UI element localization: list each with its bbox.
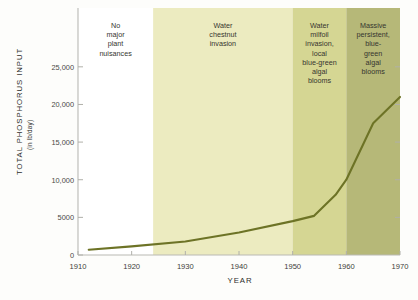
band-label-line: Massive (360, 21, 386, 30)
band-label-line: blue-green (302, 58, 336, 67)
band-label-line: persistent, (357, 30, 390, 39)
y-tick-label: 20,000 (51, 100, 74, 109)
band-label-line: blue- (365, 39, 382, 48)
y-axis-title-group: TOTAL PHOSPHORUS INPUT (in lb/day) (15, 48, 34, 175)
band-label-line: milfoil (310, 30, 329, 39)
band-label-line: green (364, 49, 382, 58)
x-tick-label: 1950 (284, 262, 301, 271)
y-tick-label: 10,000 (51, 176, 74, 185)
band-label-line: No (111, 21, 120, 30)
x-tick-label: 1970 (392, 262, 409, 271)
y-tick-label: 25,000 (51, 63, 74, 72)
band-label-line: blooms (308, 76, 332, 85)
band-label-line: Water (310, 21, 330, 30)
band-label-line: plant (108, 39, 124, 48)
band-label-line: algal (366, 58, 382, 67)
y-axis-title: TOTAL PHOSPHORUS INPUT (15, 48, 24, 175)
x-tick-label: 1960 (338, 262, 355, 271)
x-tick-label: 1910 (70, 262, 87, 271)
y-axis-units: (in lb/day) (26, 120, 34, 150)
band-label-line: algal (312, 67, 328, 76)
y-tick-label: 0 (70, 251, 74, 260)
y-tick-label: 15,000 (51, 138, 74, 147)
band-label-line: invasion, (305, 39, 333, 48)
band-label-line: major (107, 30, 126, 39)
x-tick-label: 1920 (123, 262, 140, 271)
band-label-line: nuisances (99, 49, 132, 58)
band-label-line: Water (213, 21, 233, 30)
x-tick-label: 1930 (177, 262, 194, 271)
band-label-line: local (312, 49, 327, 58)
band-label-line: blooms (362, 67, 386, 76)
x-tick-label: 1940 (231, 262, 248, 271)
band-label-line: chestnut (209, 30, 236, 39)
phosphorus-input-chart: 0500010,00015,00020,00025,00019101920193… (0, 0, 418, 300)
band-label-line: invasion (210, 39, 236, 48)
x-axis-title: YEAR (228, 276, 253, 285)
chart-svg: 0500010,00015,00020,00025,00019101920193… (0, 0, 418, 300)
annotation-bands (78, 8, 400, 255)
y-tick-label: 5000 (58, 213, 74, 222)
